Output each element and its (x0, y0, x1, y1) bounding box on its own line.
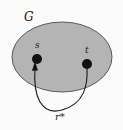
graph-region-ellipse (12, 22, 112, 92)
graph-diagram: G s t r* (0, 0, 123, 130)
node-t-dot (82, 59, 92, 69)
node-s-label: s (35, 41, 40, 50)
edge-r-star-label: r* (55, 112, 65, 122)
node-t-label: t (85, 46, 89, 55)
graph-region-label: G (24, 11, 34, 23)
node-s-dot (32, 54, 42, 64)
